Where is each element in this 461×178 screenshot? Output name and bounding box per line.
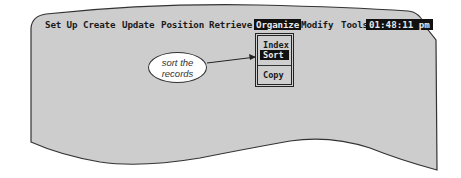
menu-option-index[interactable]: Index <box>260 40 289 50</box>
menu-tools[interactable]: Tools <box>341 19 368 30</box>
menu-position[interactable]: Position <box>161 19 204 30</box>
organize-dropdown-menu: Index Sort Copy <box>255 33 294 87</box>
callout-bubble: sort the records <box>148 52 207 83</box>
callout-line-1: sort the <box>149 57 206 68</box>
menu-update[interactable]: Update <box>122 19 154 30</box>
menu-organize[interactable]: Organize <box>254 19 301 30</box>
figure: Set Up Create Update Position Retrieve O… <box>0 0 461 178</box>
callout-line-2: records <box>149 68 206 79</box>
clock: 01:48:11 pm <box>366 19 433 30</box>
menu-retrieve[interactable]: Retrieve <box>209 19 252 30</box>
menu-modify[interactable]: Modify <box>301 19 333 30</box>
menu-separator <box>258 65 291 66</box>
menu-option-copy[interactable]: Copy <box>260 70 289 80</box>
menu-set-up[interactable]: Set Up <box>45 19 77 30</box>
menu-create[interactable]: Create <box>83 19 115 30</box>
menu-option-sort[interactable]: Sort <box>260 50 289 60</box>
